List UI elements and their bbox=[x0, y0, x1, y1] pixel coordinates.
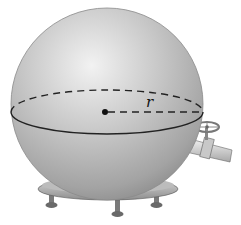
spherical-tank-diagram: r bbox=[0, 0, 241, 225]
center-point bbox=[102, 109, 108, 115]
radius-label: r bbox=[146, 93, 154, 111]
sphere-tank bbox=[11, 8, 203, 200]
